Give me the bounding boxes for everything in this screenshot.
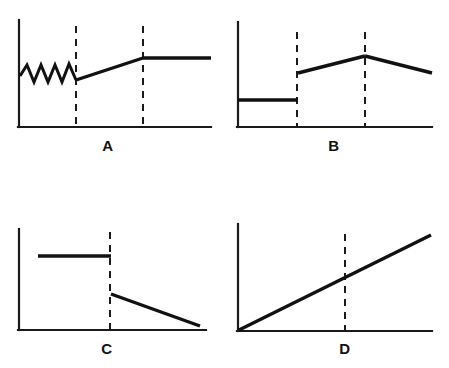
panel-a-zigzag-segment [20,64,76,82]
panel-a-plot [0,0,224,184]
panel-a-label: A [88,137,128,154]
panel-c-declining-ramp [111,294,200,326]
panel-d-label: D [325,340,365,357]
panel-b-label: B [314,137,354,154]
figure-root: A B [0,0,449,368]
panel-b-plot [225,0,449,184]
panel-b-declining-ramp [365,56,432,73]
panel-a [0,0,224,184]
panel-d-linear-rise [239,235,431,330]
panel-b-rising-ramp [298,56,365,73]
panel-a-rising-ramp [76,58,143,80]
panel-b [225,0,449,184]
panel-c-label: C [87,340,127,357]
